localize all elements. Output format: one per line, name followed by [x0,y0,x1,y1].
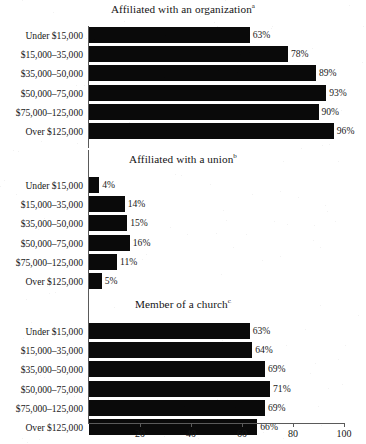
bar-row: $15,000–35,00078% [0,45,366,64]
bar-value-label: 5% [102,273,118,289]
bar-row: $75,000–125,00011% [0,253,366,272]
bar [89,65,316,81]
bar-row: $35,000–50,00015% [0,214,366,233]
chart-panel-affiliated-organization: Affiliated with an organizationa Under $… [0,0,366,150]
category-label: $15,000–35,000 [0,195,83,214]
bar [89,27,250,43]
category-label: $75,000–125,000 [0,253,83,272]
axis-tick [191,423,192,427]
bar-row: Under $15,0004% [0,176,366,195]
bar-track: 15% [89,215,366,232]
bar [89,123,334,139]
bar-track: 96% [89,123,366,140]
axis-tick [242,423,243,427]
bar [89,361,265,377]
category-label: $15,000–35,000 [0,45,83,64]
category-label: $75,000–125,000 [0,399,83,418]
axis-tick-label: 60 [237,428,247,439]
plot-area: Under $15,00063%$15,000–35,00078%$35,000… [0,26,366,148]
bar-value-label: 16% [130,235,151,251]
bar-row: $35,000–50,00069% [0,360,366,379]
bar [89,215,127,231]
axis-tick-label: 20 [135,428,145,439]
bar-track: 90% [89,104,366,121]
bar-value-label: 11% [117,254,137,270]
bar [89,235,130,251]
panel-title-superscript: a [252,2,255,10]
value-axis-line [88,423,345,424]
bar [89,342,252,358]
bar [89,381,270,397]
bar-value-label: 90% [319,104,340,120]
axis-tick-label: 100 [337,428,352,439]
bar-track: 89% [89,65,366,82]
category-label: $15,000–35,000 [0,341,83,360]
bar-value-label: 93% [326,85,347,101]
bar-row: $35,000–50,00089% [0,64,366,83]
bar-value-label: 89% [316,65,337,81]
bar-value-label: 63% [250,27,271,43]
bar-value-label: 69% [265,400,286,416]
bar-value-label: 78% [288,46,309,62]
axis-tick [293,423,294,427]
bar-value-label: 69% [265,361,286,377]
panel-title-text: Affiliated with an organization [111,3,252,15]
bar [89,400,265,416]
bar-track: 78% [89,46,366,63]
category-label: Under $15,000 [0,26,83,45]
category-label: $35,000–50,000 [0,214,83,233]
panel-title-text: Member of a church [135,298,228,310]
bar-value-label: 63% [250,323,271,339]
bar-row: $15,000–35,00014% [0,195,366,214]
category-label: $35,000–50,000 [0,360,83,379]
chart-panel-affiliated-union: Affiliated with a unionb Under $15,0004%… [0,150,366,295]
bar-track: 4% [89,177,366,194]
bar-track: 71% [89,381,366,398]
bar-track: 5% [89,273,366,290]
category-label: $35,000–50,000 [0,64,83,83]
bar [89,46,288,62]
panel-title-superscript: b [233,152,237,160]
panel-title: Affiliated with an organizationa [0,3,366,15]
bar-track: 11% [89,254,366,271]
bar [89,104,319,120]
category-label: $50,000–75,000 [0,84,83,103]
plot-area: Under $15,0004%$15,000–35,00014%$35,000–… [0,176,366,295]
bar [89,177,99,193]
category-label: Over $125,000 [0,272,83,291]
bar-track: 69% [89,361,366,378]
plot-area: Under $15,00063%$15,000–35,00064%$35,000… [0,322,366,423]
bar [89,196,125,212]
bar [89,85,326,101]
panel-title-text: Affiliated with a union [129,153,233,165]
chart-panel-member-church: Member of a churchc Under $15,00063%$15,… [0,295,366,423]
bar-row: $75,000–125,00069% [0,399,366,418]
bar [89,323,250,339]
category-label: $50,000–75,000 [0,234,83,253]
axis-tick [140,423,141,427]
axis-tick [344,423,345,427]
bar-value-label: 96% [334,123,355,139]
category-label: $75,000–125,000 [0,103,83,122]
bar-row: $15,000–35,00064% [0,341,366,360]
bar-row: Over $125,00096% [0,122,366,141]
bar-value-label: 15% [127,215,148,231]
bar-row: $50,000–75,00093% [0,84,366,103]
bar-track: 63% [89,27,366,44]
bar-row: $50,000–75,00016% [0,234,366,253]
bar-track: 16% [89,235,366,252]
axis-tick-label: 40 [186,428,196,439]
bar-value-label: 64% [252,342,273,358]
bar-track: 14% [89,196,366,213]
bar [89,273,102,289]
bar-track: 93% [89,85,366,102]
bar-row: Under $15,00063% [0,26,366,45]
bar-row: $50,000–75,00071% [0,380,366,399]
bar-value-label: 71% [270,381,291,397]
bar-track: 63% [89,323,366,340]
bar-track: 69% [89,400,366,417]
bar-row: Over $125,0005% [0,272,366,291]
bar-row: $75,000–125,00090% [0,103,366,122]
value-axis: 20406080100 [0,423,366,444]
bar-row: Under $15,00063% [0,322,366,341]
